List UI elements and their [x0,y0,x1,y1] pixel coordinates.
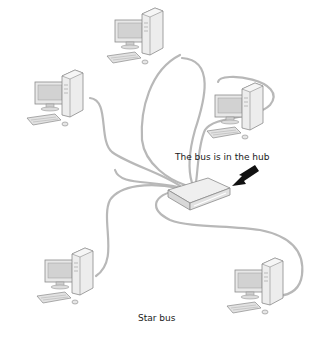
cable-top-b [182,58,205,183]
computer-left [27,70,83,126]
diagram-caption: Star bus [138,313,175,323]
computer-right [207,83,263,139]
computer-bottom-left [37,248,93,304]
star-bus-diagram [0,0,317,343]
arrow-icon [232,165,259,186]
cable-bottom-left [96,185,178,276]
cable-left [90,98,180,186]
computer-bottom-right [227,258,283,314]
computer-top [107,8,163,64]
hub-annotation: The bus is in the hub [175,152,269,162]
cable-top [142,55,185,185]
